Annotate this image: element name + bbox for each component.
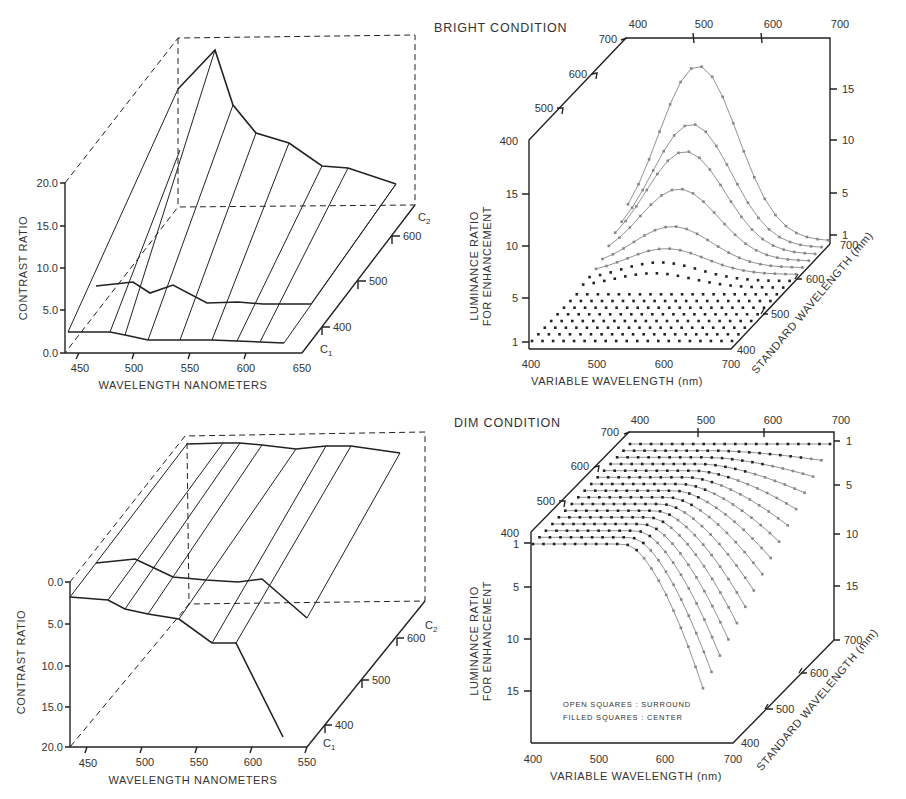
y-tick: 0.0 <box>48 576 63 588</box>
y-tick: 15.0 <box>42 701 63 713</box>
x-tick: 400 <box>522 358 540 370</box>
x-axis-label: VARIABLE WAVELENGTH (nm) <box>550 770 722 782</box>
x-tick: 700 <box>724 753 742 765</box>
right-tick-marks <box>834 441 840 640</box>
x-axis-label: VARIABLE WAVELENGTH (nm) <box>531 375 703 387</box>
back-box-dashed <box>70 432 425 747</box>
back-curve-c2 <box>178 50 396 184</box>
top-x-tick: 500 <box>697 414 715 426</box>
right-depth-tick: 500 <box>776 703 794 715</box>
x-tick: 450 <box>71 362 89 374</box>
y-axis-label-line2: FOR ENHANCEMENT <box>481 206 493 326</box>
x-tick: 500 <box>588 358 606 370</box>
right-depth-tick: 600 <box>810 667 828 679</box>
depth-tick-marks <box>559 432 630 507</box>
right-depth-tick: 400 <box>737 344 755 356</box>
y-tick: 20.0 <box>42 741 63 753</box>
depth-tick: 500 <box>537 495 555 507</box>
bright-data-points <box>531 65 830 342</box>
legend-open-squares: OPEN SQUARES : SURROUND <box>563 700 691 709</box>
top-x-tick: 700 <box>831 18 849 30</box>
y-tick: 1 <box>512 336 518 348</box>
y-tick: 5.0 <box>48 618 63 630</box>
y-tick: 5.0 <box>43 304 58 316</box>
y-tick-marks <box>65 582 70 747</box>
x-tick: 500 <box>590 753 608 765</box>
x-tick: 600 <box>655 358 673 370</box>
y-tick: 1 <box>513 538 519 550</box>
x-tick: 600 <box>656 753 674 765</box>
y-tick: 10 <box>506 240 518 252</box>
top-x-tick: 500 <box>695 18 713 30</box>
x-tick: 600 <box>244 756 262 768</box>
y-tick: 20.0 <box>37 177 58 189</box>
depth-tick: 500 <box>369 275 387 287</box>
depth-tick: 400 <box>335 719 353 731</box>
y-tick: 15 <box>507 685 519 697</box>
legend-filled-squares: FILLED SQUARES : CENTER <box>563 713 683 722</box>
top-x-tick: 700 <box>832 414 850 426</box>
depth-tick: 600 <box>407 632 425 644</box>
x-axis-label: WAVELENGTH NANOMETERS <box>108 774 277 786</box>
x-tick: 450 <box>79 757 97 769</box>
panel-bottom-left: 0.0 5.0 10.0 15.0 20.0 450 500 550 600 5… <box>15 432 438 786</box>
x-tick: 500 <box>136 756 154 768</box>
right-y-tick: 10 <box>842 134 854 146</box>
x-tick: 600 <box>237 362 255 374</box>
right-y-tick: 5 <box>842 187 848 199</box>
back-edge-dashed <box>187 443 189 604</box>
panel-title: BRIGHT CONDITION <box>434 21 567 35</box>
right-y-tick: 15 <box>846 580 858 592</box>
depth-tick: 600 <box>403 230 421 242</box>
top-x-tick: 400 <box>631 414 649 426</box>
depth-tick: 400 <box>333 321 351 333</box>
y-tick: 10.0 <box>42 660 63 672</box>
y-axis-label: CONTRAST RATIO <box>17 216 29 321</box>
depth-axis-label: STANDARD WAVELENGTH (mm) <box>749 229 875 376</box>
frame-back <box>531 432 834 743</box>
right-y-tick: 15 <box>842 83 854 95</box>
x-axis-label: WAVELENGTH NANOMETERS <box>98 379 267 391</box>
depth-label-c2: C2 <box>418 211 431 226</box>
y-tick: 0.0 <box>43 347 58 359</box>
depth-tick: 500 <box>372 674 390 686</box>
dim-data-points <box>532 443 832 690</box>
depth-label-c1: C1 <box>323 737 336 752</box>
x-tick-marks <box>85 747 307 753</box>
x-tick: 700 <box>722 358 740 370</box>
top-x-tick: 400 <box>629 18 647 30</box>
depth-tick: 600 <box>571 460 589 472</box>
right-tick-marks <box>830 89 837 235</box>
x-tick-marks <box>76 353 246 359</box>
depth-tick: 400 <box>500 135 518 147</box>
right-y-tick: 5 <box>846 479 852 491</box>
panel-bottom-right: DIM CONDITION 400 500 600 700 1 5 10 15 … <box>454 414 880 782</box>
depth-label-c2: C2 <box>425 619 438 634</box>
panel-title: DIM CONDITION <box>454 416 561 430</box>
y-tick-marks <box>522 194 529 342</box>
x-tick: 550 <box>190 756 208 768</box>
depth-tick: 500 <box>535 102 553 114</box>
x-tick: 650 <box>293 362 311 374</box>
surface-grid-lines <box>68 50 396 343</box>
y-tick: 5 <box>513 581 519 593</box>
y-tick: 5 <box>512 292 518 304</box>
y-axis-label-line2: FOR ENHANCEMENT <box>481 581 493 701</box>
depth-axis-label: STANDARD WAVELENGTH (mm) <box>754 626 880 773</box>
depth-label-c1: C1 <box>320 343 333 358</box>
x-tick: 550 <box>181 362 199 374</box>
y-tick-marks <box>524 543 531 691</box>
x-tick: 400 <box>524 753 542 765</box>
y-tick: 15.0 <box>37 220 58 232</box>
depth-axis <box>302 205 415 353</box>
y-axis-label-line1: LUMINANCE RATIO <box>468 211 480 321</box>
right-depth-tick: 400 <box>741 737 759 749</box>
y-tick: 15 <box>506 188 518 200</box>
top-x-tick: 600 <box>764 18 782 30</box>
surface-grid-lines <box>70 443 400 643</box>
depth-tick: 600 <box>569 68 587 80</box>
right-depth-tick: 500 <box>771 308 789 320</box>
y-tick-marks <box>60 183 65 353</box>
x-tick: 500 <box>125 362 143 374</box>
x-tick: 550 <box>298 756 316 768</box>
